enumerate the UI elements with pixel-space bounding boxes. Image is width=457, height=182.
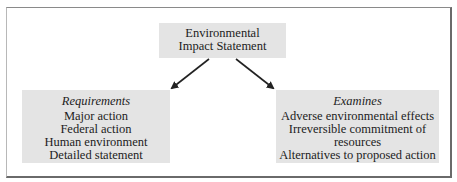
requirement-item: Detailed statement [22, 149, 170, 162]
requirements-box: Requirements Major action Federal action… [22, 90, 170, 163]
title-line-2: Impact Statement [159, 40, 286, 53]
eis-title-box: Environmental Impact Statement [159, 23, 286, 58]
requirements-heading: Requirements [22, 95, 170, 108]
examines-item: Alternatives to proposed action [276, 149, 439, 162]
examines-heading: Examines [276, 95, 439, 108]
examines-box: Examines Adverse environmental effects I… [276, 90, 439, 163]
